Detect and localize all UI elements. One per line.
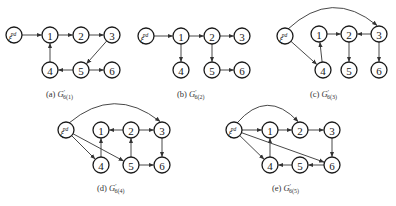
node-5: 5 (292, 157, 308, 173)
svg-text:pd: pd (10, 31, 17, 37)
node-6: 6 (324, 157, 340, 173)
edge-3-to-5 (87, 41, 107, 64)
arc-edge-s-to-2 (237, 105, 298, 123)
svg-text:3: 3 (159, 125, 165, 137)
caption-a: (a) G′6(1) (46, 89, 73, 101)
svg-text:2: 2 (297, 125, 303, 137)
subgraph-d: 123456ξpd(d) G′6(4) (58, 104, 170, 195)
svg-text:2: 2 (78, 30, 84, 42)
svg-text:6: 6 (109, 65, 115, 77)
node-6: 6 (371, 62, 387, 78)
node-1: 1 (262, 122, 278, 138)
node-4: 4 (173, 62, 189, 78)
caption-e: (e) G′6(5) (272, 183, 299, 195)
svg-text:4: 4 (47, 65, 53, 77)
svg-text:1: 1 (178, 31, 184, 43)
source-node: ξpd (6, 27, 22, 44)
node-6: 6 (104, 62, 120, 78)
svg-text:6: 6 (239, 65, 245, 77)
source-node: ξpd (58, 122, 74, 139)
node-3: 3 (371, 26, 387, 42)
subgraph-b: 123456ξpd(b) G′6(2) (138, 28, 250, 101)
node-3: 3 (104, 27, 120, 43)
node-4: 4 (93, 157, 109, 173)
svg-text:4: 4 (178, 65, 184, 77)
svg-text:2: 2 (346, 29, 352, 41)
svg-text:6: 6 (159, 160, 165, 172)
node-1: 1 (173, 28, 189, 44)
svg-text:2: 2 (209, 31, 215, 43)
svg-text:1: 1 (316, 29, 322, 41)
node-2: 2 (123, 122, 139, 138)
svg-text:pd: pd (62, 126, 69, 132)
node-2: 2 (292, 122, 308, 138)
node-3: 3 (324, 122, 340, 138)
edge-s-to-6 (242, 133, 324, 162)
svg-text:5: 5 (209, 65, 215, 77)
edge-s-to-4 (291, 41, 317, 64)
svg-text:4: 4 (98, 160, 104, 172)
node-5: 5 (204, 62, 220, 78)
svg-text:5: 5 (346, 65, 352, 77)
node-6: 6 (234, 62, 250, 78)
svg-text:1: 1 (47, 30, 53, 42)
caption-d: (d) G′6(4) (97, 183, 125, 195)
subgraph-a: 123456ξpd(a) G′6(1) (6, 27, 120, 101)
caption-b: (b) G′6(2) (177, 89, 205, 101)
svg-text:1: 1 (267, 125, 273, 137)
node-3: 3 (154, 122, 170, 138)
subgraph-e: 123456ξpd(e) G′6(5) (226, 105, 340, 195)
edge-4-to-1 (320, 42, 322, 62)
svg-text:1: 1 (98, 125, 104, 137)
svg-text:6: 6 (329, 160, 335, 172)
source-node: ξpd (138, 28, 154, 45)
source-node: ξpd (226, 122, 242, 139)
svg-text:3: 3 (239, 31, 245, 43)
node-1: 1 (93, 122, 109, 138)
svg-text:3: 3 (109, 30, 115, 42)
diagram-canvas: 123456ξpd(a) G′6(1)123456ξpd(b) G′6(2)12… (0, 0, 396, 206)
node-2: 2 (204, 28, 220, 44)
svg-text:3: 3 (376, 29, 382, 41)
svg-text:4: 4 (267, 160, 273, 172)
svg-text:5: 5 (78, 65, 84, 77)
svg-text:pd: pd (281, 32, 288, 38)
node-5: 5 (73, 62, 89, 78)
node-2: 2 (73, 27, 89, 43)
subgraph-c: 123456ξpd(c) G′6(3) (277, 8, 387, 101)
node-5: 5 (341, 62, 357, 78)
node-4: 4 (262, 157, 278, 173)
svg-text:6: 6 (376, 65, 382, 77)
node-1: 1 (311, 26, 327, 42)
node-3: 3 (234, 28, 250, 44)
node-4: 4 (315, 62, 331, 78)
source-node: ξpd (277, 28, 293, 45)
node-2: 2 (341, 26, 357, 42)
arc-edge-s-to-3 (288, 8, 377, 29)
svg-text:5: 5 (297, 160, 303, 172)
svg-text:5: 5 (128, 160, 134, 172)
node-4: 4 (42, 62, 58, 78)
svg-text:pd: pd (142, 32, 149, 38)
svg-text:4: 4 (320, 65, 326, 77)
arc-edge-s-to-3 (69, 104, 160, 123)
svg-text:2: 2 (128, 125, 134, 137)
caption-c: (c) G′6(3) (310, 89, 337, 101)
svg-text:pd: pd (230, 126, 237, 132)
svg-text:3: 3 (329, 125, 335, 137)
node-5: 5 (123, 157, 139, 173)
node-1: 1 (42, 27, 58, 43)
node-6: 6 (154, 157, 170, 173)
